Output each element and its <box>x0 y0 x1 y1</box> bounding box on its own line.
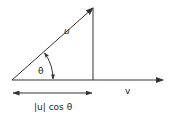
angle-arc <box>45 53 54 79</box>
label-projection: |u| cos θ <box>34 102 73 112</box>
label-theta: θ <box>38 66 44 76</box>
label-u: u <box>64 26 70 36</box>
vector-projection-diagram: u v θ |u| cos θ <box>0 0 173 116</box>
label-v: v <box>125 86 131 96</box>
